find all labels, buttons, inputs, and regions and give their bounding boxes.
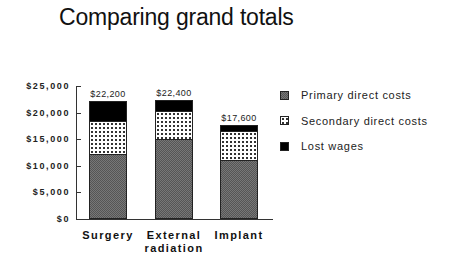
legend-item-lost: Lost wages [280, 139, 450, 153]
y-tick-label: $25,000 [0, 81, 70, 91]
legend-swatch-icon [280, 91, 289, 100]
bar-segment-primary [221, 161, 257, 218]
legend-label: Secondary direct costs [301, 115, 428, 127]
y-tick-label: $20,000 [0, 108, 70, 118]
bar-segment-primary [156, 140, 192, 218]
bar-segment-lost [90, 102, 126, 121]
bar-stack [220, 125, 258, 219]
y-tick [76, 192, 81, 193]
y-axis [76, 86, 77, 219]
legend-swatch-icon [280, 142, 289, 151]
total-label: $22,200 [78, 89, 138, 99]
x-axis [76, 219, 273, 220]
category-label: Implant [199, 229, 279, 242]
plot-area: $25,000$20,000$15,000$10,000$5,000$0$22,… [0, 0, 450, 268]
y-tick [76, 139, 81, 140]
category-label-line: Implant [199, 229, 279, 242]
bar-segment-secondary [90, 121, 126, 155]
legend-item-secondary: Secondary direct costs [280, 114, 450, 128]
legend-label: Primary direct costs [301, 89, 412, 101]
y-tick-label: $10,000 [0, 161, 70, 171]
total-label: $17,600 [209, 113, 269, 123]
bar-segment-primary [90, 155, 126, 218]
y-tick [76, 219, 81, 220]
legend-swatch-icon [280, 116, 289, 125]
y-tick-label: $0 [0, 214, 70, 224]
y-tick-label: $5,000 [0, 187, 70, 197]
y-tick [76, 86, 81, 87]
bar-segment-secondary [156, 111, 192, 139]
legend-label: Lost wages [301, 140, 364, 152]
y-tick [76, 166, 81, 167]
category-label-line: radiation [134, 242, 214, 255]
y-tick [76, 113, 81, 114]
legend-item-primary: Primary direct costs [280, 88, 450, 102]
bar-segment-secondary [221, 131, 257, 161]
bar-segment-lost [156, 101, 192, 111]
bar-stack [155, 100, 193, 219]
bar-stack [89, 101, 127, 219]
total-label: $22,400 [144, 88, 204, 98]
y-tick-label: $15,000 [0, 134, 70, 144]
